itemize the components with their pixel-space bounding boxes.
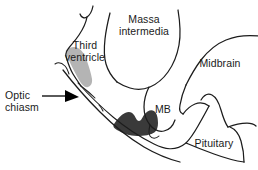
pituitary-gland-outline xyxy=(186,106,244,162)
pituitary-superior-outline xyxy=(201,94,228,127)
label-optic-chiasm: Optic chiasm xyxy=(5,90,59,113)
lamina-terminalis-hook xyxy=(55,63,69,74)
pituitary-right-outline xyxy=(228,123,256,127)
arrow-head-icon xyxy=(65,90,79,102)
label-mammillary-body: MB xyxy=(151,104,175,116)
brain-midsagittal-diagram: Massa intermedia Third ventricle Midbrai… xyxy=(0,0,258,170)
corpus-callosum-outline xyxy=(80,6,93,18)
label-pituitary: Pituitary xyxy=(186,138,242,150)
label-massa-intermedia: Massa intermedia xyxy=(111,14,177,37)
optic-nerve-connector xyxy=(81,86,95,98)
midbrain-inferior-outline xyxy=(180,85,186,114)
label-third-ventricle: Third ventricle xyxy=(57,40,113,63)
label-midbrain: Midbrain xyxy=(189,58,251,70)
